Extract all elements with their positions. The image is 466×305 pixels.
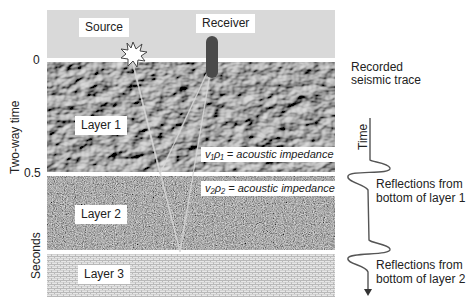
- trace-arrowhead-icon: [364, 289, 372, 296]
- reflection2-line1: Reflections from: [376, 258, 463, 272]
- layer1-impedance-symbol: v₁ρ₁: [205, 148, 224, 160]
- axis-title-seconds: Seconds: [29, 232, 43, 279]
- axis-tick-0: 0: [33, 53, 40, 67]
- receiver-icon: [206, 36, 218, 78]
- trace-title-line1: Recorded: [351, 60, 403, 74]
- layer3-label: Layer 3: [78, 265, 130, 284]
- reflection1-line2: bottom of layer 1: [376, 191, 465, 205]
- layer2-impedance-text: = acoustic impedance: [225, 182, 335, 194]
- axis-title-two-way-time: Two-way time: [8, 101, 22, 174]
- source-label: Source: [79, 18, 129, 37]
- axis-tick-0.5: 0.5: [24, 166, 41, 180]
- receiver-label: Receiver: [196, 14, 255, 33]
- trace-title-line2: seismic trace: [351, 73, 421, 87]
- reflection2-line2: bottom of layer 2: [376, 272, 465, 286]
- reflection1-line1: Reflections from: [376, 177, 463, 191]
- layer1-label: Layer 1: [75, 116, 127, 135]
- layer1-impedance-label: v₁ρ₁ = acoustic impedance: [201, 147, 338, 162]
- layer1-impedance-text: = acoustic impedance: [224, 148, 334, 160]
- layer2-impedance-symbol: v₂ρ₂: [205, 182, 225, 194]
- layer2-impedance-label: v₂ρ₂ = acoustic impedance: [201, 181, 339, 196]
- layer2-label: Layer 2: [75, 205, 127, 224]
- trace-time-label: Time: [356, 124, 370, 150]
